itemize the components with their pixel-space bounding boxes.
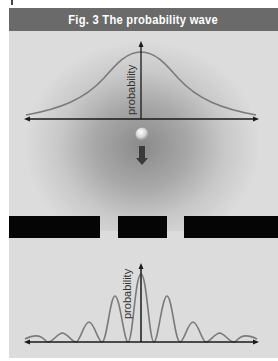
barrier-left: [9, 216, 100, 238]
x-axis-left-arrow-icon: [24, 340, 30, 345]
bottom-graph: probability: [24, 263, 259, 345]
page-fragment: [11, 0, 13, 5]
diagram-canvas: probability probability: [9, 8, 278, 358]
y-axis-label: probability: [125, 64, 137, 115]
y-axis-label: probability: [121, 268, 133, 319]
x-axis-right-arrow-icon: [253, 117, 259, 122]
barrier-right: [184, 216, 278, 238]
sphere-icon: [136, 128, 149, 141]
x-axis-right-arrow-icon: [253, 340, 259, 345]
y-axis-arrow-icon: [139, 41, 144, 47]
barrier-middle: [118, 216, 167, 238]
down-arrow-icon: [136, 146, 148, 165]
y-axis-arrow-icon: [139, 263, 144, 269]
x-axis-left-arrow-icon: [24, 117, 30, 122]
top-graph: probability: [24, 41, 259, 122]
figure-panel: Fig. 3 The probability wave probability: [9, 8, 278, 358]
